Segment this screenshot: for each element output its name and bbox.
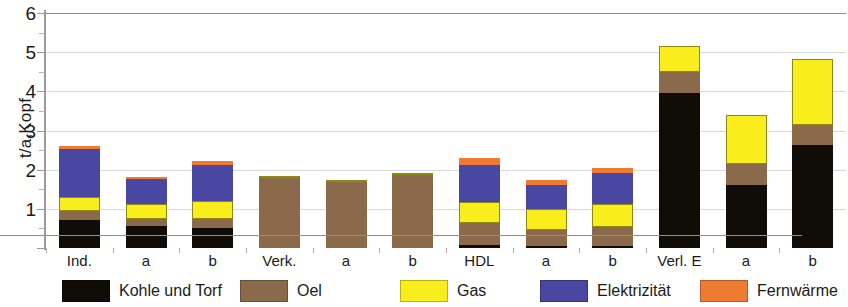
legend-item-coal: Kohle und Torf <box>62 280 222 302</box>
x-tick-mark <box>446 248 447 253</box>
bar-segment-oil <box>126 219 167 227</box>
x-tick-label-11: b <box>808 251 816 271</box>
legend-item-gas: Gas <box>400 280 486 302</box>
legend-swatch-elec <box>540 280 588 302</box>
x-tick-label-7: a <box>542 251 550 271</box>
bar-segment-oil <box>392 175 433 248</box>
y-tick-mark <box>37 248 45 249</box>
bar-segment-coal <box>792 145 833 248</box>
x-tick-mark <box>779 248 780 253</box>
x-tick-mark <box>513 248 514 253</box>
bar-segment-elec <box>59 149 100 197</box>
bar-segment-gas <box>726 115 767 164</box>
y-tick-mark <box>37 91 45 92</box>
bar-1 <box>126 177 167 248</box>
bar-segment-oil <box>59 211 100 220</box>
bar-segment-oil <box>726 164 767 184</box>
y-tick-label-5: 5 <box>2 43 36 62</box>
legend-swatch-coal <box>62 280 110 302</box>
chart-legend: Kohle und TorfOelGasElektrizitätFernwärm… <box>0 278 848 304</box>
x-tick-label-10: a <box>742 251 750 271</box>
y-tick-label-6: 6 <box>2 4 36 23</box>
bar-segment-coal <box>192 228 233 248</box>
x-tick-mark <box>713 248 714 253</box>
bar-4 <box>326 180 367 248</box>
bar-segment-gas <box>192 201 233 219</box>
bar-segment-coal <box>126 226 167 248</box>
legend-item-heat: Fernwärme <box>700 280 838 302</box>
x-tick-mark <box>646 248 647 253</box>
bar-segment-gas <box>59 197 100 211</box>
bar-segment-oil <box>659 72 700 94</box>
legend-item-oil: Oel <box>240 280 322 302</box>
x-tick-label-4: a <box>342 251 350 271</box>
bar-7 <box>526 180 567 248</box>
x-tick-label-3: Verk. <box>262 251 296 271</box>
x-tick-label-2: b <box>208 251 216 271</box>
bar-segment-gas <box>592 204 633 227</box>
bar-segment-coal <box>659 93 700 248</box>
x-tick-mark <box>579 248 580 253</box>
legend-swatch-heat <box>700 280 748 302</box>
y-tick-mark <box>37 209 45 210</box>
bar-segment-elec <box>192 165 233 201</box>
legend-label-coal: Kohle und Torf <box>119 281 222 301</box>
bar-segment-elec <box>459 165 500 202</box>
bar-0 <box>59 146 100 248</box>
y-tick-mark-minor <box>39 189 45 190</box>
gridline <box>46 91 846 92</box>
bar-segment-gas <box>792 59 833 125</box>
x-tick-mark <box>113 248 114 253</box>
bar-segment-heat <box>459 158 500 165</box>
bar-segment-oil <box>192 219 233 229</box>
bar-11 <box>792 59 833 248</box>
legend-label-gas: Gas <box>457 281 486 301</box>
y-tick-mark-minor <box>39 33 45 34</box>
bar-segment-elec <box>592 173 633 204</box>
bar-segment-coal <box>459 245 500 248</box>
y-tick-mark-minor <box>39 228 45 229</box>
bar-segment-gas <box>459 202 500 224</box>
bar-5 <box>392 173 433 248</box>
y-tick-mark <box>37 170 45 171</box>
y-tick-mark <box>37 52 45 53</box>
legend-label-heat: Fernwärme <box>757 281 838 301</box>
legend-swatch-oil <box>240 280 288 302</box>
y-tick-label-4: 4 <box>2 82 36 101</box>
x-tick-mark <box>246 248 247 253</box>
bar-segment-coal <box>726 185 767 248</box>
x-tick-label-1: a <box>142 251 150 271</box>
y-tick-mark-minor <box>39 111 45 112</box>
bar-segment-oil <box>526 230 567 246</box>
bar-10 <box>726 115 767 248</box>
x-tick-mark <box>379 248 380 253</box>
bar-segment-gas <box>526 209 567 229</box>
x-tick-label-6: HDL <box>464 251 494 271</box>
y-tick-mark-minor <box>39 72 45 73</box>
bar-segment-oil <box>792 125 833 145</box>
y-tick-mark <box>37 13 45 14</box>
bar-segment-elec <box>126 179 167 203</box>
x-tick-label-0: Ind. <box>67 251 92 271</box>
x-tick-label-8: b <box>608 251 616 271</box>
y-axis-tick-labels: 123456 <box>0 0 42 260</box>
legend-label-elec: Elektrizität <box>597 281 671 301</box>
legend-item-elec: Elektrizität <box>540 280 671 302</box>
x-axis-line <box>0 235 802 236</box>
y-tick-label-1: 1 <box>2 199 36 218</box>
bar-segment-gas <box>659 46 700 71</box>
legend-swatch-gas <box>400 280 448 302</box>
bar-segment-oil <box>592 227 633 246</box>
stacked-bar-chart: t/a,Kopf 123456 Ind.abVerk.abHDLabVerl. … <box>0 0 848 307</box>
bar-segment-coal <box>59 220 100 248</box>
y-tick-label-3: 3 <box>2 121 36 140</box>
bar-segment-oil <box>259 178 300 248</box>
bar-segment-gas <box>126 204 167 219</box>
bar-9 <box>659 46 700 248</box>
y-tick-label-2: 2 <box>2 160 36 179</box>
bar-segment-oil <box>326 182 367 248</box>
y-tick-mark <box>37 131 45 132</box>
plot-area <box>46 13 846 248</box>
gridline <box>46 13 846 14</box>
bar-segment-coal <box>592 246 633 248</box>
